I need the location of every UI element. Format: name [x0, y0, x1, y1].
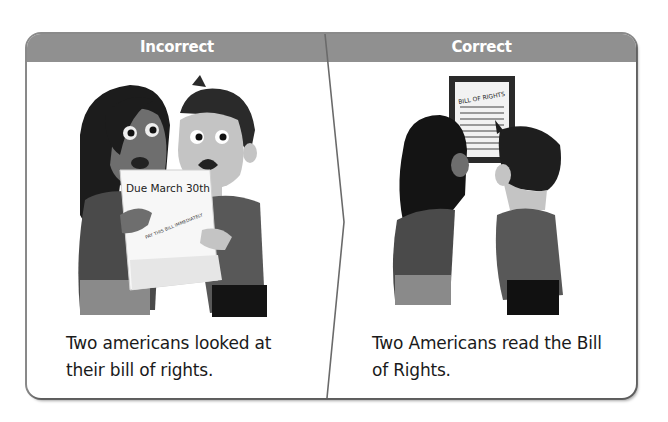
correct-caption-line-2: of Rights.	[372, 357, 622, 384]
bill-due-text: Due March 30th	[126, 182, 210, 194]
incorrect-caption: Two americans looked at their bill of ri…	[66, 330, 306, 384]
incorrect-header: Incorrect	[27, 38, 327, 56]
header-bar: Incorrect Correct	[27, 34, 636, 62]
correct-header: Correct	[327, 38, 636, 56]
correct-illustration: BILL OF RIGHTS	[385, 70, 575, 315]
correct-caption-line-1: Two Americans read the Bill	[372, 330, 622, 357]
incorrect-illustration: Due March 30th PAY THIS BILL IMMEDIATELY	[60, 75, 280, 320]
incorrect-caption-line-1: Two americans looked at	[66, 330, 306, 357]
incorrect-caption-line-2: their bill of rights.	[66, 357, 306, 384]
correct-caption: Two Americans read the Bill of Rights.	[372, 330, 622, 384]
